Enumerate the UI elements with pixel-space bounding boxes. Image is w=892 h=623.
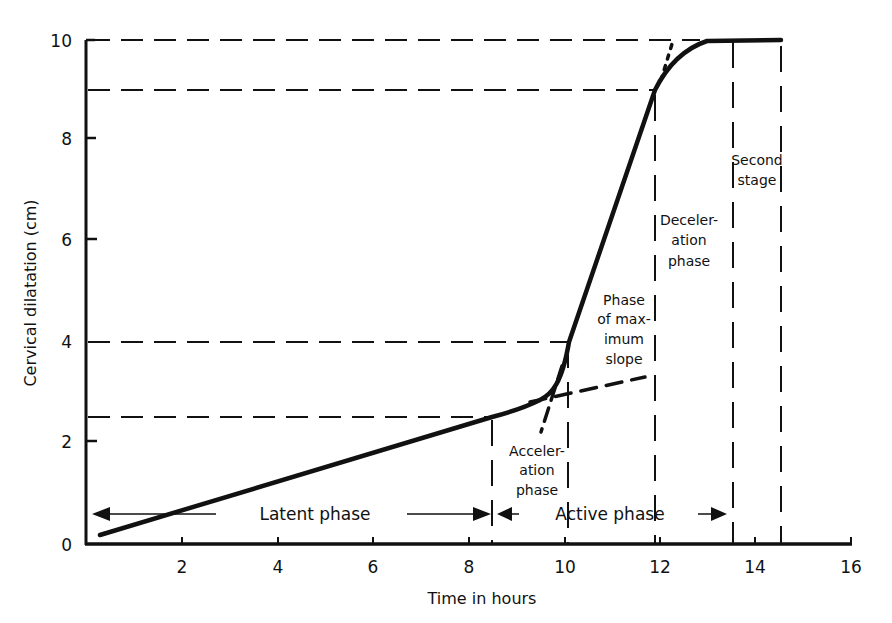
x-tick-8: 8: [464, 557, 475, 577]
x-tick-12: 12: [649, 557, 671, 577]
svg-text:phase: phase: [516, 482, 558, 498]
labor-curve-chart: 0 2 4 6 8 10 2 4 6 8 10 12 14 16 Time in…: [0, 0, 892, 623]
arrow-right-icon: [711, 507, 727, 521]
y-tick-6: 6: [61, 230, 72, 250]
arrow-right-icon: [473, 507, 491, 521]
x-tick-10: 10: [554, 557, 576, 577]
y-tick-8: 8: [61, 129, 72, 149]
x-axis-title: Time in hours: [427, 589, 537, 608]
x-tick-labels: 2 4 6 8 10 12 14 16: [177, 557, 862, 577]
y-tick-10: 10: [50, 31, 72, 51]
x-tick-14: 14: [744, 557, 766, 577]
labor-curve: [100, 40, 781, 535]
y-tick-4: 4: [61, 332, 72, 352]
y-axis-title: Cervical dilatation (cm): [21, 199, 40, 386]
svg-text:ation: ation: [519, 462, 554, 478]
svg-text:phase: phase: [668, 253, 710, 269]
arrow-left-icon: [497, 507, 512, 521]
active-phase-annotation: Active phase: [497, 504, 727, 524]
axes: [85, 40, 852, 545]
latent-slope-extension: [530, 377, 645, 402]
acceleration-phase-label: Acceler- ation phase: [509, 443, 565, 498]
svg-text:ation: ation: [671, 232, 706, 248]
svg-text:Deceler-: Deceler-: [660, 212, 718, 228]
latent-phase-label: Latent phase: [259, 504, 370, 524]
x-tick-16: 16: [840, 557, 862, 577]
deceleration-phase-label: Deceler- ation phase: [660, 212, 718, 269]
x-tick-4: 4: [273, 557, 284, 577]
x-tick-2: 2: [177, 557, 188, 577]
max-slope-phase-label: Phase of max- imum slope: [597, 292, 651, 367]
x-tick-6: 6: [368, 557, 379, 577]
y-tick-labels: 0 2 4 6 8 10: [50, 31, 72, 555]
svg-text:Phase: Phase: [603, 292, 645, 308]
arrow-left-icon: [92, 507, 110, 521]
svg-text:stage: stage: [738, 172, 777, 188]
svg-text:slope: slope: [605, 351, 642, 367]
svg-text:of max-: of max-: [597, 311, 651, 327]
svg-text:imum: imum: [604, 331, 644, 347]
active-phase-label: Active phase: [555, 504, 664, 524]
svg-text:Acceler-: Acceler-: [509, 443, 565, 459]
second-stage-label: Second stage: [731, 152, 783, 188]
y-tick-0: 0: [61, 535, 72, 555]
svg-text:Second: Second: [731, 152, 783, 168]
y-tick-2: 2: [61, 432, 72, 452]
